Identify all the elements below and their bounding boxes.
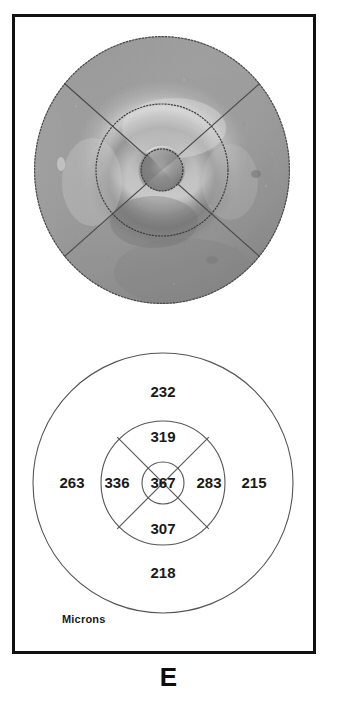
zone-value-paracentral-left: 336 xyxy=(104,474,129,491)
zone-value-peripheral-inferior: 218 xyxy=(150,564,175,581)
figure-root: 367 319 283 307 336 232 215 218 263 Micr… xyxy=(0,0,337,702)
artifact-right xyxy=(251,170,261,178)
zone-value-center: 367 xyxy=(150,474,175,491)
zone-value-paracentral-superior: 319 xyxy=(150,428,175,445)
artifact-left xyxy=(57,157,65,171)
zone-value-peripheral-right: 215 xyxy=(241,474,266,491)
units-label: Microns xyxy=(62,613,106,625)
artifact-lower-right xyxy=(206,256,218,264)
right-light-blob xyxy=(202,144,258,220)
corneal-topography-map xyxy=(34,36,290,304)
zone-value-paracentral-right: 283 xyxy=(196,474,221,491)
peripheral-inferior-shade xyxy=(114,238,254,304)
pachymetry-zone-schematic: 367 319 283 307 336 232 215 218 263 xyxy=(30,350,296,626)
zone-value-peripheral-superior: 232 xyxy=(150,383,175,400)
topography-disc xyxy=(34,36,290,304)
zone-value-paracentral-inferior: 307 xyxy=(150,520,175,537)
zone-value-peripheral-left: 263 xyxy=(59,474,84,491)
panel-letter: E xyxy=(0,662,337,693)
